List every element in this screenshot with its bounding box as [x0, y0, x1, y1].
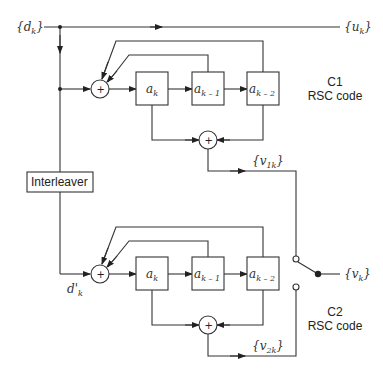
c2-name: C2	[327, 305, 343, 319]
switch-arm	[298, 262, 318, 274]
c1-type: RSC code	[308, 89, 363, 103]
vk-label: {vk}	[344, 267, 371, 283]
systematic-output-label: {uk}	[344, 20, 372, 36]
interleaved-input-label: d'k	[67, 282, 83, 298]
turbo-encoder-diagram: + + + + ak ak – 1 ak – 2 ak ak – 1 ak – …	[0, 0, 383, 374]
c1-name: C1	[327, 75, 343, 89]
switch-pivot	[315, 271, 321, 277]
interleaver-label: Interleaver	[31, 175, 88, 189]
svg-text:+: +	[205, 135, 213, 146]
input-label: {dk}	[16, 20, 44, 36]
svg-text:+: +	[97, 269, 105, 280]
v1k-label: {v1k}	[252, 154, 284, 170]
v2k-label: {v2k}	[252, 339, 284, 355]
switch-terminal-c1	[293, 256, 299, 262]
switch-terminal-c2	[293, 284, 299, 290]
c2-type: RSC code	[308, 319, 363, 333]
svg-text:+: +	[205, 320, 213, 331]
svg-text:+: +	[97, 84, 105, 95]
